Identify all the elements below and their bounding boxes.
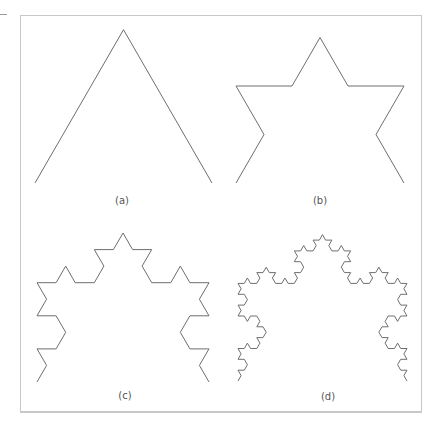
koch-curve-level-0 — [35, 30, 212, 183]
panel-label-c: (c) — [118, 390, 131, 401]
panel-label-d: (d) — [321, 391, 335, 402]
panel-label-b: (b) — [313, 195, 327, 206]
koch-curves — [0, 0, 444, 437]
koch-curve-level-1 — [236, 38, 404, 184]
koch-curve-level-2 — [37, 233, 209, 382]
koch-curve-level-3 — [238, 235, 407, 381]
panel-label-a: (a) — [115, 195, 129, 206]
